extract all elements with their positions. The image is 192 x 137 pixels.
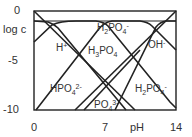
log-c-ph-diagram [0, 0, 192, 137]
x-tick-0: 0 [31, 122, 37, 133]
label-oh-minus: OH- [148, 40, 165, 51]
label-h3po4: H3PO4 [88, 46, 118, 57]
label-h-plus: H+ [56, 43, 67, 54]
y-tick-minus5: -5 [8, 55, 18, 66]
y-tick-minus10: -10 [3, 104, 19, 115]
label-h2po4-top: H2PO4- [97, 23, 129, 34]
label-po4: PO43- [94, 100, 119, 111]
label-hpo4: HPO42- [50, 84, 82, 95]
x-tick-7: 7 [102, 122, 108, 133]
x-tick-14: 14 [170, 122, 182, 133]
y-tick-0: 0 [14, 5, 20, 16]
y-axis-label: log c [3, 24, 26, 35]
label-h2po4-right: H2PO4- [135, 84, 167, 95]
x-axis-label: pH [130, 122, 144, 133]
h3po4-curve [34, 21, 126, 110]
